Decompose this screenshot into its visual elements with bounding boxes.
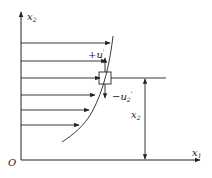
y-axis-label: x2 xyxy=(27,11,37,23)
origin-label: O xyxy=(8,157,16,168)
turbulent-flow-diagram: x2 x1 O +u' −u2' x2 xyxy=(0,0,212,178)
height-dimension-label: x2 xyxy=(131,109,141,121)
x-axis-label: x1 xyxy=(192,147,201,159)
positive-fluctuation-label: +u' xyxy=(88,48,105,60)
negative-fluctuation-label: −u2' xyxy=(112,90,133,103)
